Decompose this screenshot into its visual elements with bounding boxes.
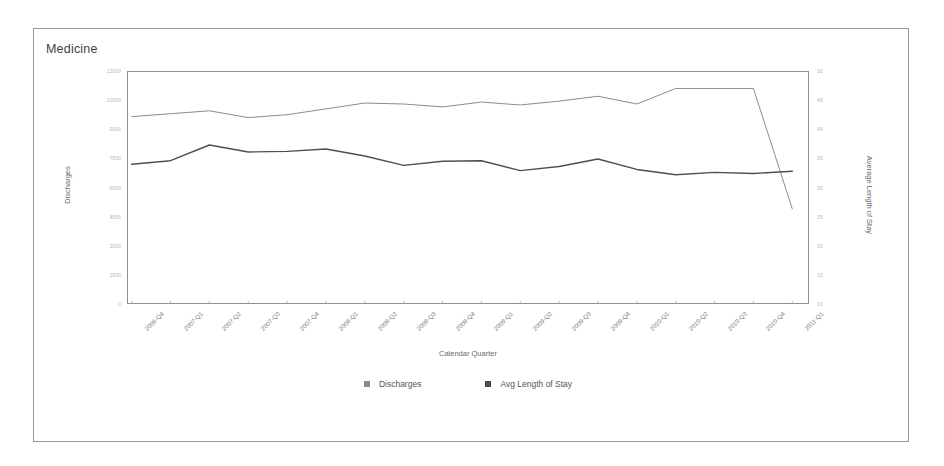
y-axis-right-tick: 15: [817, 272, 857, 278]
y-axis-left-tick: 3000: [71, 243, 121, 249]
y-axis-left-tick: 7500: [71, 155, 121, 161]
legend-swatch-avg-length-of-stay: [485, 381, 491, 387]
y-axis-right-tick: 35: [817, 155, 857, 161]
y-axis-right-title: Average Length of Stay: [865, 115, 874, 275]
y-axis-right-tick: 25: [817, 214, 857, 220]
y-axis-left-tick: 9000: [71, 126, 121, 132]
y-axis-left-tick: 1500: [71, 272, 121, 278]
y-axis-left-tick: 0: [71, 301, 121, 307]
y-axis-left-tick: 6000: [71, 185, 121, 191]
series-line-avg-length-of-stay: [132, 145, 793, 175]
y-axis-right-tick: 40: [817, 126, 857, 132]
y-axis-left-tick: 12000: [71, 68, 121, 74]
chart-legend: Discharges Avg Length of Stay: [127, 379, 809, 389]
y-axis-right-tick: 50: [817, 68, 857, 74]
legend-swatch-discharges: [364, 381, 370, 387]
y-axis-right-tick: 20: [817, 243, 857, 249]
page-title: Medicine: [46, 42, 98, 56]
y-axis-right-tick: 10: [817, 301, 857, 307]
legend-item-avg-length-of-stay: Avg Length of Stay: [485, 379, 572, 389]
y-axis-left-tick: 4500: [71, 214, 121, 220]
chart-screenshot-root: Medicine Discharges Average Length of St…: [0, 0, 944, 466]
y-axis-left-tick: 10500: [71, 97, 121, 103]
legend-item-discharges: Discharges: [364, 379, 422, 389]
y-axis-right-tick: 45: [817, 97, 857, 103]
y-axis-right-tick: 30: [817, 185, 857, 191]
legend-label-avg-length-of-stay: Avg Length of Stay: [500, 379, 572, 389]
plot-lines: [127, 71, 809, 304]
x-axis-title: Calendar Quarter: [127, 349, 809, 358]
legend-label-discharges: Discharges: [379, 379, 422, 389]
